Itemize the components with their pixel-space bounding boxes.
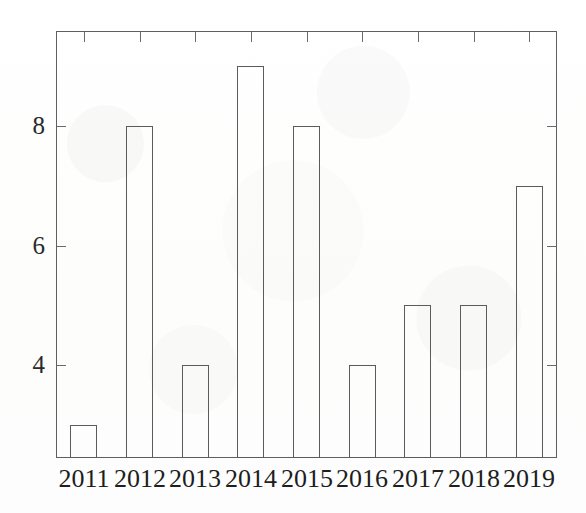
axis-labels-layer: 864201120122013201420152016201720182019 [0,0,586,513]
x-axis-tick-label-2017: 2017 [392,466,444,492]
x-axis-tick-label-2018: 2018 [448,466,500,492]
y-axis-tick-label: 6 [33,233,46,258]
y-axis-tick-label: 4 [33,352,46,377]
x-axis-tick-label-2011: 2011 [58,466,109,492]
chart-page: 864201120122013201420152016201720182019 [0,0,586,513]
y-axis-tick-label: 8 [33,113,46,138]
x-axis-tick-label-2014: 2014 [225,466,277,492]
x-axis-tick-label-2016: 2016 [336,466,388,492]
x-axis-tick-label-2015: 2015 [281,466,333,492]
x-axis-tick-label-2013: 2013 [169,466,221,492]
x-axis-tick-label-2019: 2019 [503,466,555,492]
x-axis-tick-label-2012: 2012 [114,466,166,492]
